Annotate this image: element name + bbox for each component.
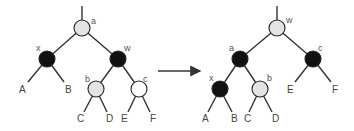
label-c: c [318,43,323,53]
node-x [39,51,55,67]
leaf-E: E [121,113,128,124]
label-x: x [209,73,214,83]
leaf-C: C [77,113,84,124]
node-w [269,20,285,36]
leaf-F: F [332,84,338,95]
tree-after: w a c x b A B C D E F [202,6,338,124]
label-w: w [285,15,293,25]
node-x [212,81,228,97]
node-a [74,20,90,36]
node-a [232,51,248,67]
node-b [252,81,268,97]
label-x: x [36,43,41,53]
label-a: a [91,16,96,26]
label-c: c [143,74,148,84]
label-w: w [123,43,131,53]
label-b: b [85,74,90,84]
leaf-E: E [287,84,294,95]
leaf-B: B [65,84,72,95]
tree-before: a x w b c A B C D E F [19,6,156,124]
label-a: a [229,43,234,53]
tree-rotation-diagram: a x w b c A B C D E F w a c x b A [0,0,354,131]
node-c [305,51,321,67]
label-b: b [267,73,272,83]
leaf-D: D [106,113,113,124]
leaf-A: A [202,113,209,124]
leaf-C: C [244,113,251,124]
node-b [88,81,104,97]
leaf-A: A [19,84,26,95]
leaf-B: B [231,113,238,124]
leaf-D: D [272,113,279,124]
leaf-F: F [150,113,156,124]
node-w [110,51,126,67]
